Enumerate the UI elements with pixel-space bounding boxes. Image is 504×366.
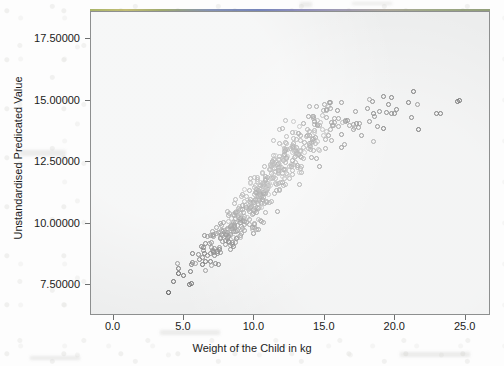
- data-point: [312, 119, 317, 124]
- y-tick-mark: [85, 100, 90, 101]
- data-point: [310, 114, 315, 119]
- data-point: [233, 240, 238, 245]
- data-point: [377, 109, 382, 114]
- x-tick-label: 15.0: [313, 320, 334, 332]
- scatter-chart: 0.05.010.015.020.025.0 7.5000010.0000012…: [0, 0, 504, 366]
- data-point: [307, 104, 312, 109]
- data-point: [203, 268, 208, 273]
- data-point: [284, 134, 289, 139]
- data-point: [218, 250, 223, 255]
- data-point: [252, 221, 257, 226]
- x-tick-label: 20.0: [384, 320, 405, 332]
- data-point: [394, 107, 399, 112]
- data-point: [381, 94, 386, 99]
- data-point: [260, 197, 265, 202]
- data-point: [371, 139, 376, 144]
- data-point: [250, 227, 255, 232]
- data-point: [251, 211, 256, 216]
- data-point: [295, 163, 300, 168]
- data-point: [302, 140, 307, 145]
- data-point: [297, 170, 302, 175]
- data-point: [356, 125, 361, 130]
- y-tick-mark: [85, 161, 90, 162]
- data-point: [166, 290, 171, 295]
- data-point: [335, 108, 340, 113]
- data-point: [406, 100, 411, 105]
- data-point: [175, 261, 180, 266]
- data-point: [339, 132, 344, 137]
- data-point: [312, 130, 317, 135]
- data-point: [262, 164, 267, 169]
- data-point: [367, 119, 372, 124]
- data-point: [301, 156, 306, 161]
- x-tick-label: 25.0: [454, 320, 475, 332]
- y-tick-mark: [85, 223, 90, 224]
- data-point: [297, 182, 302, 187]
- data-point: [283, 118, 288, 123]
- data-point: [189, 281, 194, 286]
- data-point: [314, 104, 319, 109]
- data-point: [317, 164, 322, 169]
- data-point: [188, 269, 193, 274]
- x-tick-label: 0.0: [105, 320, 120, 332]
- data-point: [381, 126, 386, 131]
- data-point: [231, 244, 236, 249]
- data-point: [190, 251, 195, 256]
- data-point: [216, 262, 221, 267]
- data-point: [271, 138, 276, 143]
- data-point: [260, 181, 265, 186]
- data-point: [353, 109, 358, 114]
- scanned-page-background: 0.05.010.015.020.025.0 7.5000010.0000012…: [0, 0, 504, 366]
- data-point: [211, 249, 216, 254]
- data-point: [386, 102, 391, 107]
- data-point: [372, 114, 377, 119]
- data-point: [181, 273, 186, 278]
- data-point: [171, 279, 176, 284]
- data-point: [251, 231, 256, 236]
- plot-area: [90, 11, 490, 315]
- data-point: [411, 89, 416, 94]
- y-tick-mark: [85, 284, 90, 285]
- data-point: [415, 102, 420, 107]
- data-point: [193, 261, 198, 266]
- data-point: [314, 156, 319, 161]
- y-axis-label: Unstandardised Predicated Value: [12, 76, 24, 239]
- data-point: [263, 210, 268, 215]
- y-axis-label-container: Unstandardised Predicated Value: [8, 0, 28, 315]
- data-point: [457, 98, 462, 103]
- data-point: [282, 146, 287, 151]
- data-point: [345, 118, 350, 123]
- data-point: [270, 176, 275, 181]
- data-point: [220, 239, 225, 244]
- data-point: [342, 142, 347, 147]
- data-point: [290, 168, 295, 173]
- data-point: [323, 146, 328, 151]
- data-point: [269, 164, 274, 169]
- data-point: [365, 106, 370, 111]
- data-point: [226, 239, 231, 244]
- data-point: [339, 100, 344, 105]
- data-point: [238, 220, 243, 225]
- data-point: [359, 133, 364, 138]
- data-points-layer: [91, 12, 489, 314]
- data-point: [275, 209, 280, 214]
- data-point: [176, 266, 181, 271]
- data-point: [276, 181, 281, 186]
- data-point: [284, 141, 289, 146]
- data-point: [277, 188, 282, 193]
- x-tick-label: 10.0: [243, 320, 264, 332]
- data-point: [302, 150, 307, 155]
- data-point: [336, 116, 341, 121]
- data-point: [318, 120, 323, 125]
- data-point: [389, 95, 394, 100]
- data-point: [291, 119, 296, 124]
- y-tick-mark: [85, 38, 90, 39]
- data-point: [242, 228, 247, 233]
- x-tick-label: 5.0: [175, 320, 190, 332]
- data-point: [269, 199, 274, 204]
- data-point: [384, 110, 389, 115]
- data-point: [209, 263, 214, 268]
- data-point: [409, 115, 414, 120]
- data-point: [309, 155, 314, 160]
- data-point: [211, 232, 216, 237]
